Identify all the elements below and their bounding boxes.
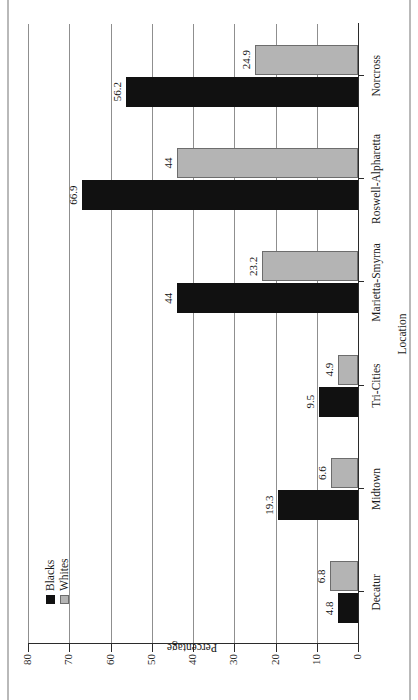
y-axis-tick-label: 40 [187, 654, 198, 694]
y-axis-tick-label: 20 [270, 654, 281, 694]
x-axis-category-label: Midtown [370, 468, 382, 510]
bar-blacks [319, 387, 358, 417]
y-axis-tick-label: 30 [228, 654, 239, 694]
bar-blacks [82, 180, 358, 210]
x-axis-category-label: Norcross [370, 55, 382, 97]
bar-value-label: 23.2 [248, 257, 259, 276]
y-axis-tick [276, 644, 277, 652]
legend-swatch-whites-icon [60, 595, 69, 604]
bar-blacks [278, 490, 358, 520]
y-axis-tick-label: 0 [352, 654, 363, 694]
y-axis-tick-label: 50 [146, 654, 157, 694]
x-axis-tick [358, 488, 364, 489]
bar-value-label: 24.9 [241, 50, 252, 69]
bar-value-label: 6.6 [317, 466, 328, 480]
bar-value-label: 66.9 [68, 185, 79, 204]
y-axis-tick [358, 644, 359, 652]
x-axis-title: Location [396, 24, 408, 644]
x-axis-line [358, 23, 359, 644]
chart-figure: 01020304050607080 4.86.819.36.69.54.9442… [0, 0, 418, 700]
x-axis-tick [358, 591, 364, 592]
bar-whites [255, 45, 358, 75]
y-axis-tick [111, 644, 112, 652]
y-axis-tick-label: 10 [311, 654, 322, 694]
bar-value-label: 56.2 [112, 82, 123, 101]
y-axis-tick [69, 644, 70, 652]
x-axis-tick [358, 75, 364, 76]
plot-area: 4.86.819.36.69.54.94423.266.94456.224.9 [28, 24, 358, 644]
bar-value-label: 44 [163, 158, 174, 169]
chart-legend: Blacks Whites [44, 558, 70, 604]
bar-value-label: 44 [163, 293, 174, 304]
bar-whites [338, 355, 358, 385]
bar-value-label: 4.9 [324, 363, 335, 377]
bar-value-label: 6.8 [316, 569, 327, 583]
x-axis-category-label: Marietta-Smyrna [370, 243, 382, 322]
x-axis-tick [358, 281, 364, 282]
y-axis-tick-label: 60 [105, 654, 116, 694]
x-axis-tick [358, 178, 364, 179]
legend-item-whites: Whites [58, 558, 70, 604]
y-axis-tick [28, 644, 29, 652]
y-axis-tick [317, 644, 318, 652]
legend-label-whites: Whites [58, 558, 70, 591]
bar-whites [330, 561, 358, 591]
bar-value-label: 19.3 [264, 495, 275, 514]
y-axis-tick-label: 80 [22, 654, 33, 694]
bar-whites [262, 251, 358, 281]
bar-blacks [338, 593, 358, 623]
y-axis-title: Percentage [132, 642, 252, 654]
x-axis-category-label: Decatur [370, 574, 382, 610]
legend-swatch-blacks-icon [46, 595, 55, 604]
x-axis-category-label: Roswell-Alpharetta [370, 134, 382, 224]
bar-whites [177, 148, 359, 178]
bar-blacks [126, 77, 358, 107]
bar-value-label: 4.8 [324, 601, 335, 615]
y-axis-tick-label: 70 [63, 654, 74, 694]
x-axis-tick [358, 385, 364, 386]
x-axis-category-label: Tri-Cities [370, 364, 382, 408]
bar-value-label: 9.5 [305, 395, 316, 409]
bar-blacks [177, 283, 359, 313]
bar-whites [331, 458, 358, 488]
legend-item-blacks: Blacks [44, 558, 56, 604]
legend-label-blacks: Blacks [44, 560, 56, 591]
